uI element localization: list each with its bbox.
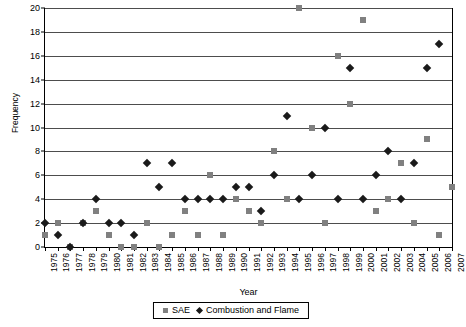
data-point bbox=[182, 208, 188, 214]
data-point bbox=[244, 183, 252, 191]
x-axis-tick-mark bbox=[299, 247, 300, 251]
data-point bbox=[346, 64, 354, 72]
y-axis-title: Frequency bbox=[10, 68, 20, 158]
data-point bbox=[156, 244, 162, 250]
x-axis-tick-label: 1977 bbox=[74, 253, 84, 272]
legend-item-sae: SAE bbox=[163, 305, 190, 315]
data-point bbox=[295, 195, 303, 203]
data-point bbox=[296, 5, 302, 11]
y-axis-tick-label: 6 bbox=[35, 170, 40, 180]
y-axis-tick-mark bbox=[41, 103, 45, 104]
data-point bbox=[449, 184, 455, 190]
x-axis-tick-label: 1992 bbox=[265, 253, 275, 272]
data-point bbox=[41, 219, 49, 227]
x-axis-tick-label: 2001 bbox=[379, 253, 389, 272]
data-point bbox=[384, 147, 392, 155]
data-point bbox=[106, 232, 112, 238]
data-point bbox=[360, 17, 366, 23]
data-point bbox=[424, 136, 430, 142]
x-axis-tick-mark bbox=[452, 247, 453, 251]
data-point bbox=[371, 171, 379, 179]
x-axis-tick-mark bbox=[338, 247, 339, 251]
x-axis-tick-label: 1995 bbox=[303, 253, 313, 272]
data-point bbox=[347, 101, 353, 107]
data-point bbox=[168, 159, 176, 167]
x-axis-tick-mark bbox=[172, 247, 173, 251]
x-axis-tick-label: 2002 bbox=[392, 253, 402, 272]
y-axis-tick-label: 8 bbox=[35, 146, 40, 156]
data-point bbox=[104, 219, 112, 227]
x-axis-tick-label: 1976 bbox=[61, 253, 71, 272]
data-point bbox=[93, 208, 99, 214]
legend-item-combustion-and-flame: Combustion and Flame bbox=[197, 305, 299, 315]
x-axis-tick-label: 1979 bbox=[99, 253, 109, 272]
x-axis-tick-mark bbox=[401, 247, 402, 251]
x-axis-tick-label: 2003 bbox=[405, 253, 415, 272]
x-axis-tick-label: 1986 bbox=[188, 253, 198, 272]
x-axis-tick-mark bbox=[388, 247, 389, 251]
x-axis-tick-mark bbox=[439, 247, 440, 251]
data-point bbox=[410, 159, 418, 167]
x-axis-tick-label: 1989 bbox=[227, 253, 237, 272]
data-point bbox=[92, 195, 100, 203]
data-point bbox=[411, 220, 417, 226]
legend-label-combustion-and-flame: Combustion and Flame bbox=[206, 305, 299, 315]
gridline bbox=[45, 80, 452, 81]
data-point bbox=[270, 171, 278, 179]
data-point bbox=[282, 111, 290, 119]
chart-legend: SAE Combustion and Flame bbox=[153, 302, 309, 319]
plot-area: 0246810121416182019751976197719781979198… bbox=[44, 8, 453, 248]
data-point bbox=[271, 148, 277, 154]
x-axis-tick-mark bbox=[376, 247, 377, 251]
x-axis-tick-mark bbox=[210, 247, 211, 251]
x-axis-tick-mark bbox=[147, 247, 148, 251]
x-axis-tick-mark bbox=[223, 247, 224, 251]
x-axis-tick-mark bbox=[45, 247, 46, 251]
x-axis-tick-mark bbox=[58, 247, 59, 251]
data-point bbox=[322, 220, 328, 226]
data-point bbox=[206, 195, 214, 203]
x-axis-tick-label: 1999 bbox=[354, 253, 364, 272]
x-axis-tick-label: 1981 bbox=[125, 253, 135, 272]
data-point bbox=[130, 231, 138, 239]
y-axis-tick-mark bbox=[41, 127, 45, 128]
legend-label-sae: SAE bbox=[172, 305, 190, 315]
y-axis-tick-label: 4 bbox=[35, 194, 40, 204]
data-point bbox=[359, 195, 367, 203]
gridline bbox=[45, 175, 452, 176]
data-point bbox=[335, 53, 341, 59]
data-point bbox=[118, 244, 124, 250]
gridline bbox=[45, 104, 452, 105]
y-axis-tick-label: 0 bbox=[35, 242, 40, 252]
x-axis-tick-label: 1997 bbox=[328, 253, 338, 272]
y-axis-tick-label: 10 bbox=[30, 123, 40, 133]
data-point bbox=[284, 196, 290, 202]
data-point bbox=[233, 196, 239, 202]
data-point bbox=[397, 195, 405, 203]
x-axis-tick-mark bbox=[350, 247, 351, 251]
x-axis-tick-mark bbox=[363, 247, 364, 251]
data-point bbox=[144, 220, 150, 226]
x-axis-tick-mark bbox=[427, 247, 428, 251]
x-axis-tick-mark bbox=[274, 247, 275, 251]
x-axis-tick-label: 1975 bbox=[49, 253, 59, 272]
y-axis-tick-mark bbox=[41, 199, 45, 200]
y-axis-tick-mark bbox=[41, 8, 45, 9]
x-axis-tick-mark bbox=[109, 247, 110, 251]
data-point bbox=[373, 208, 379, 214]
data-point bbox=[398, 160, 404, 166]
x-axis-tick-mark bbox=[83, 247, 84, 251]
y-axis-tick-label: 14 bbox=[30, 75, 40, 85]
data-point bbox=[169, 232, 175, 238]
x-axis-tick-mark bbox=[198, 247, 199, 251]
data-point bbox=[131, 244, 137, 250]
x-axis-tick-label: 1982 bbox=[138, 253, 148, 272]
y-axis-tick-label: 16 bbox=[30, 51, 40, 61]
y-axis-tick-mark bbox=[41, 55, 45, 56]
square-marker-icon bbox=[163, 308, 168, 313]
x-axis-tick-mark bbox=[249, 247, 250, 251]
data-point bbox=[207, 172, 213, 178]
y-axis-tick-mark bbox=[41, 79, 45, 80]
data-point bbox=[232, 183, 240, 191]
x-axis-tick-mark bbox=[261, 247, 262, 251]
